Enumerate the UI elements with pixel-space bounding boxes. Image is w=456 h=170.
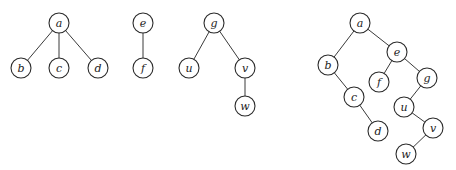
node-label: e xyxy=(140,17,147,30)
node-label: c xyxy=(351,91,357,104)
node-label: d xyxy=(374,125,381,138)
node-label: w xyxy=(401,148,411,161)
node-label: g xyxy=(423,72,430,85)
node-label: b xyxy=(324,59,331,72)
forest-node-v: v xyxy=(235,58,255,78)
node-label: v xyxy=(242,62,249,75)
binary_tree-node-e: e xyxy=(387,42,407,62)
binary_tree-node-d: d xyxy=(368,121,388,141)
binary_tree-node-b: b xyxy=(318,55,338,75)
forest-node-b: b xyxy=(11,58,31,78)
node-label: w xyxy=(240,100,250,113)
forest-node-c: c xyxy=(49,58,69,78)
forest-node-u: u xyxy=(179,58,199,78)
node-label: a xyxy=(357,17,364,30)
forest-node-g: g xyxy=(204,13,224,33)
forest-node-w: w xyxy=(235,96,255,116)
node-label: a xyxy=(56,17,63,30)
binary_tree-node-g: g xyxy=(417,68,437,88)
forest-node-a: a xyxy=(49,13,69,33)
node-label: u xyxy=(400,101,407,114)
binary_tree-node-a: a xyxy=(350,13,370,33)
node-label: d xyxy=(94,62,101,75)
node-label: e xyxy=(394,46,401,59)
binary_tree-node-w: w xyxy=(396,144,416,164)
forest-node-e: e xyxy=(133,13,153,33)
nodes: abcdefguvwabefgcudvw xyxy=(11,13,443,164)
node-label: c xyxy=(56,62,62,75)
binary_tree-node-c: c xyxy=(344,87,364,107)
node-label: v xyxy=(430,122,437,135)
node-label: u xyxy=(185,62,192,75)
binary_tree-node-u: u xyxy=(394,97,414,117)
node-label: b xyxy=(17,62,24,75)
forest-node-f: f xyxy=(133,58,153,78)
forest-node-d: d xyxy=(88,58,108,78)
binary_tree-node-f: f xyxy=(369,72,389,92)
binary_tree-node-v: v xyxy=(423,118,443,138)
node-label: g xyxy=(210,17,217,30)
tree-diagram: abcdefguvwabefgcudvw xyxy=(0,0,456,170)
